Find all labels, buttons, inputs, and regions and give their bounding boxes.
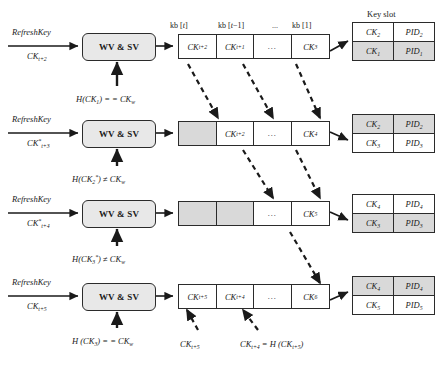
row2-cell-0 [179, 122, 217, 145]
buffer-header-3: kb [1] [292, 22, 311, 30]
row3-cell-1 [217, 202, 255, 225]
row1-key-slot: CK2 PID2 CK1 PID1 [352, 22, 435, 61]
row2-cell-3: CK4 [292, 122, 329, 145]
row2-slot-ck-1: CK3 [353, 134, 394, 153]
row1-cell-2: ... [254, 35, 292, 58]
table-row: CK2 PID2 [353, 115, 435, 134]
row4-key-slot: CK4 PID4 CK5 PID5 [352, 276, 435, 315]
row2-condition: H(CK2*) ≠ CKw [72, 175, 125, 185]
shift-arrows-3-4 [290, 232, 320, 283]
row4-cell-1: CKt+4 [217, 285, 255, 308]
row2-slot-pid-0: PID2 [394, 115, 435, 134]
row1-slot-ck-0: CK2 [353, 23, 394, 42]
row4-cell-2: ... [254, 285, 292, 308]
row3-key-slot: CK4 PID4 CK3 PID3 [352, 194, 435, 233]
row2-input-bottom: CK*t+3 [27, 139, 50, 149]
row4-buffer: CKt+5 CKt+4 ... CK6 [178, 284, 330, 309]
row3-process-box[interactable]: WV & SV [82, 200, 156, 228]
row1-buffer: CKt+2 CKt+1 ... CK3 [178, 34, 330, 59]
row3-buffer: ... CK5 [178, 201, 330, 226]
table-row: CK4 PID4 [353, 195, 435, 214]
row4-slot-ck-0: CK4 [353, 277, 394, 296]
row4-process-box[interactable]: WV & SV [82, 283, 156, 311]
row4-condition: H (CK3) = = CKw [72, 337, 133, 347]
row3-slot-ck-1: CK3 [353, 214, 394, 233]
table-row: CK1 PID1 [353, 42, 435, 61]
row1-input-bottom: CKt+2 [27, 52, 47, 62]
row1-condition: H(CK1) = = CKw [76, 95, 135, 105]
table-row: CK4 PID4 [353, 277, 435, 296]
row2-process-box[interactable]: WV & SV [82, 120, 156, 148]
row4-slot-ck-1: CK5 [353, 296, 394, 315]
key-slot-title: Key slot [367, 10, 396, 19]
row1-slot-ck-1: CK1 [353, 42, 394, 61]
bottom-note-0: CKt+5 [180, 340, 200, 350]
row3-input-top: RefreshKey [12, 195, 51, 204]
figure-canvas: kb [t] kb [t−1] ... kb [1] Key slot Refr… [0, 0, 443, 367]
row2-buffer: CKt+2 ... CK4 [178, 121, 330, 146]
buffer-header-2: ... [272, 22, 278, 30]
row4-slot-pid-0: PID4 [394, 277, 435, 296]
row3-cell-3: CK5 [292, 202, 329, 225]
row3-slot-ck-0: CK4 [353, 195, 394, 214]
row3-slot-pid-0: PID4 [394, 195, 435, 214]
row1-process-box[interactable]: WV & SV [82, 33, 156, 61]
row2-slot-ck-0: CK2 [353, 115, 394, 134]
row4-input-bottom: CKt+5 [27, 302, 47, 312]
row2-cell-1: CKt+2 [217, 122, 255, 145]
buffer-header-0: kb [t] [170, 22, 188, 30]
row2-key-slot: CK2 PID2 CK3 PID3 [352, 114, 435, 153]
row3-input-bottom: CK*t+4 [27, 219, 50, 229]
bottom-note-1: CKt+4 = H (CKt+5) [240, 340, 303, 350]
row1-cell-3: CK3 [292, 35, 329, 58]
row3-cell-2: ... [254, 202, 292, 225]
table-row: CK5 PID5 [353, 296, 435, 315]
row2-input-top: RefreshKey [12, 115, 51, 124]
row1-slot-pid-0: PID2 [394, 23, 435, 42]
row1-cell-1: CKt+1 [217, 35, 255, 58]
row2-slot-pid-1: PID3 [394, 134, 435, 153]
shift-arrows-1-2 [188, 64, 320, 118]
row2-cell-2: ... [254, 122, 292, 145]
buffer-header-1: kb [t−1] [218, 22, 244, 30]
table-row: CK3 PID3 [353, 134, 435, 153]
row4-slot-pid-1: PID5 [394, 296, 435, 315]
table-row: CK2 PID2 [353, 23, 435, 42]
row1-slot-pid-1: PID1 [394, 42, 435, 61]
row4-input-top: RefreshKey [12, 278, 51, 287]
shift-arrows-2-3 [243, 150, 320, 198]
table-row: CK3 PID3 [353, 214, 435, 233]
row3-cell-0 [179, 202, 217, 225]
row3-condition: H(CK3*) ≠ CKw [72, 255, 125, 265]
row1-cell-0: CKt+2 [179, 35, 217, 58]
row1-input-top: RefreshKey [12, 28, 51, 37]
row4-cell-0: CKt+5 [179, 285, 217, 308]
note-arrows [187, 310, 258, 330]
row4-cell-3: CK6 [292, 285, 329, 308]
row3-slot-pid-1: PID3 [394, 214, 435, 233]
